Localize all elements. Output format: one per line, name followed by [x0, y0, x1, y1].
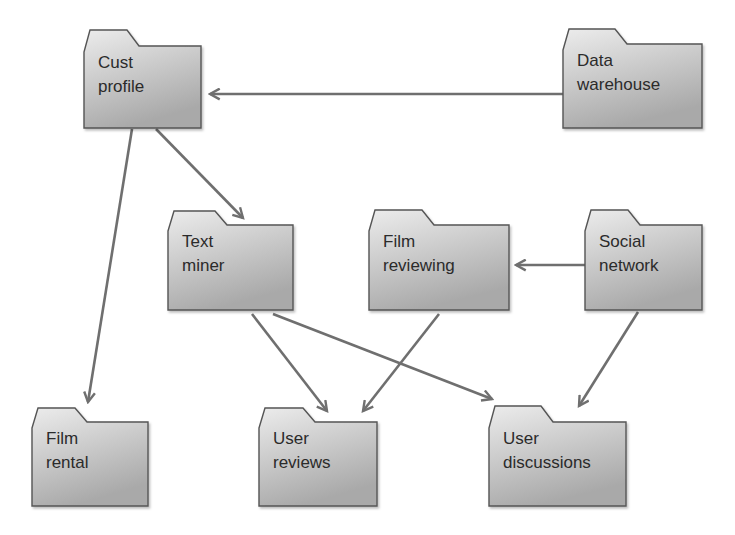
folder-user-reviews[interactable]: Userreviews	[259, 408, 377, 506]
arrow-cust-profile-to-film-rental	[88, 129, 132, 402]
folder-label-line1: Data	[577, 51, 613, 70]
folder-label-line2: rental	[46, 453, 89, 472]
arrow-cust-profile-to-text-miner	[156, 129, 243, 218]
folder-label-line2: miner	[182, 256, 225, 275]
folder-label-line1: Social	[599, 232, 645, 251]
folder-label-line2: warehouse	[576, 75, 660, 94]
diagram-canvas: CustprofileDatawarehouseTextminerFilmrev…	[0, 0, 735, 535]
folder-label-line2: profile	[98, 77, 144, 96]
folder-label-line2: discussions	[503, 453, 591, 472]
arrow-text-miner-to-user-reviews	[252, 314, 327, 411]
folder-label-line2: network	[599, 256, 659, 275]
arrow-social-network-to-user-discussions	[579, 312, 638, 406]
folder-label-line1: Cust	[98, 53, 133, 72]
folder-social-network[interactable]: Socialnetwork	[585, 210, 702, 310]
folder-data-warehouse[interactable]: Datawarehouse	[563, 29, 702, 128]
folder-label-line1: Film	[383, 232, 415, 251]
folder-label-line2: reviews	[273, 453, 331, 472]
folder-label-line1: Film	[46, 429, 78, 448]
folder-film-rental[interactable]: Filmrental	[32, 408, 148, 506]
folder-label-line1: Text	[182, 232, 213, 251]
nodes-layer: CustprofileDatawarehouseTextminerFilmrev…	[32, 29, 702, 506]
folder-film-reviewing[interactable]: Filmreviewing	[369, 210, 509, 310]
folder-cust-profile[interactable]: Custprofile	[84, 30, 201, 128]
folder-text-miner[interactable]: Textminer	[168, 211, 293, 310]
folder-label-line1: User	[503, 429, 539, 448]
folder-user-discussions[interactable]: Userdiscussions	[489, 406, 626, 506]
folder-label-line2: reviewing	[383, 256, 455, 275]
arrow-film-reviewing-to-user-reviews	[363, 314, 439, 411]
folder-label-line1: User	[273, 429, 309, 448]
